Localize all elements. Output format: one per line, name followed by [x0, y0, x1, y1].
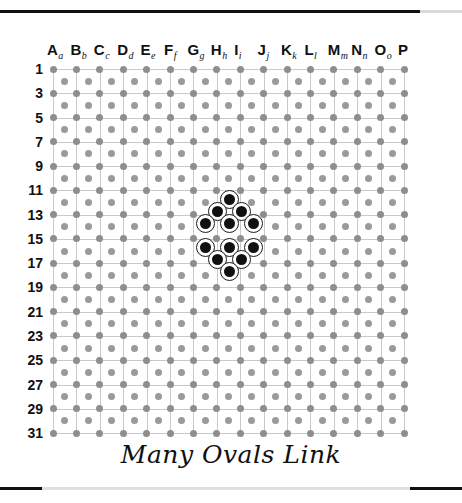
board-point[interactable] [50, 260, 57, 267]
board-point[interactable] [260, 308, 267, 315]
board-point[interactable] [155, 393, 162, 400]
board-point[interactable] [330, 114, 337, 121]
board-point[interactable] [190, 211, 197, 218]
board-point[interactable] [330, 66, 337, 73]
board-point[interactable] [155, 345, 162, 352]
board-point[interactable] [260, 90, 267, 97]
board-point[interactable] [389, 199, 396, 206]
board-point[interactable] [377, 284, 384, 291]
board-point[interactable] [319, 296, 326, 303]
board-point[interactable] [354, 332, 361, 339]
board-point[interactable] [389, 78, 396, 85]
board-point[interactable] [108, 417, 115, 424]
board-point[interactable] [73, 357, 80, 364]
board-point[interactable] [61, 272, 68, 279]
board-point[interactable] [377, 308, 384, 315]
board-point[interactable] [96, 138, 103, 145]
board-point[interactable] [272, 272, 279, 279]
board-point[interactable] [284, 430, 291, 437]
board-point[interactable] [202, 320, 209, 327]
board-point[interactable] [272, 296, 279, 303]
board-point[interactable] [178, 369, 185, 376]
board-point[interactable] [237, 66, 244, 73]
board-point[interactable] [108, 175, 115, 182]
board-point[interactable] [248, 320, 255, 327]
board-point[interactable] [330, 211, 337, 218]
board-point[interactable] [389, 345, 396, 352]
board-point[interactable] [260, 66, 267, 73]
board-point[interactable] [330, 332, 337, 339]
board-point[interactable] [401, 332, 408, 339]
board-point[interactable] [342, 150, 349, 157]
board-point[interactable] [237, 235, 244, 242]
board-point[interactable] [108, 78, 115, 85]
board-point[interactable] [307, 90, 314, 97]
board-point[interactable] [73, 211, 80, 218]
board-point[interactable] [155, 78, 162, 85]
board-point[interactable] [155, 223, 162, 230]
board-point[interactable] [143, 66, 150, 73]
board-point[interactable] [131, 417, 138, 424]
board-point[interactable] [85, 296, 92, 303]
board-point[interactable] [202, 102, 209, 109]
board-point[interactable] [155, 102, 162, 109]
board-point[interactable] [307, 357, 314, 364]
board-point[interactable] [284, 357, 291, 364]
board-point[interactable] [85, 199, 92, 206]
board-point[interactable] [61, 102, 68, 109]
board-point[interactable] [73, 138, 80, 145]
board-point[interactable] [85, 369, 92, 376]
board-point[interactable] [190, 405, 197, 412]
board-point[interactable] [61, 175, 68, 182]
board-point[interactable] [295, 199, 302, 206]
board-point[interactable] [120, 430, 127, 437]
board-point[interactable] [342, 102, 349, 109]
board-point[interactable] [401, 430, 408, 437]
board-point[interactable] [295, 296, 302, 303]
board-point[interactable] [50, 114, 57, 121]
board-point[interactable] [272, 150, 279, 157]
board-point[interactable] [155, 320, 162, 327]
board-point[interactable] [143, 405, 150, 412]
board-point[interactable] [237, 430, 244, 437]
board-point[interactable] [248, 126, 255, 133]
go-board[interactable]: AaBbCcDdEeFfGgHhIiJjKkLlMmNnOoP 13579111… [0, 0, 462, 460]
board-point[interactable] [330, 90, 337, 97]
board-point[interactable] [307, 66, 314, 73]
board-point[interactable] [237, 308, 244, 315]
board-point[interactable] [190, 66, 197, 73]
board-point[interactable] [61, 199, 68, 206]
board-point[interactable] [284, 381, 291, 388]
board-point[interactable] [354, 90, 361, 97]
board-point[interactable] [155, 150, 162, 157]
board-point[interactable] [237, 405, 244, 412]
board-point[interactable] [319, 248, 326, 255]
board-point[interactable] [108, 296, 115, 303]
board-point[interactable] [365, 393, 372, 400]
board-point[interactable] [354, 308, 361, 315]
board-point[interactable] [354, 430, 361, 437]
board-point[interactable] [120, 235, 127, 242]
board-point[interactable] [295, 393, 302, 400]
board-point[interactable] [342, 272, 349, 279]
board-point[interactable] [260, 357, 267, 364]
board-point[interactable] [213, 163, 220, 170]
board-point[interactable] [131, 223, 138, 230]
board-point[interactable] [401, 405, 408, 412]
board-point[interactable] [213, 430, 220, 437]
board-point[interactable] [73, 308, 80, 315]
board-point[interactable] [389, 417, 396, 424]
board-point[interactable] [61, 150, 68, 157]
board-point[interactable] [284, 138, 291, 145]
board-point[interactable] [202, 199, 209, 206]
board-point[interactable] [108, 126, 115, 133]
board-point[interactable] [131, 102, 138, 109]
board-point[interactable] [61, 417, 68, 424]
board-point[interactable] [389, 150, 396, 157]
board-point[interactable] [401, 284, 408, 291]
board-point[interactable] [167, 90, 174, 97]
board-point[interactable] [272, 393, 279, 400]
board-point[interactable] [377, 235, 384, 242]
marked-stone[interactable] [220, 214, 239, 233]
board-point[interactable] [237, 138, 244, 145]
